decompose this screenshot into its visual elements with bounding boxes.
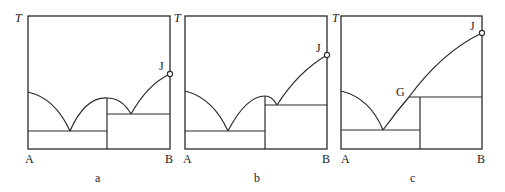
point-g-label: G xyxy=(396,85,405,99)
component-a-label: A xyxy=(25,152,34,166)
panel-a-frame xyxy=(28,16,170,149)
panel-b: T J A B b xyxy=(174,11,330,185)
liquidus-right-branch xyxy=(277,55,327,105)
liquidus-compound-branch xyxy=(383,97,409,130)
phase-diagram-figure: T J A B a T J A B b xyxy=(0,0,505,192)
liquidus-left-branch xyxy=(341,91,383,130)
temperature-axis-label: T xyxy=(174,11,182,25)
panel-a: T J A B a xyxy=(15,11,173,185)
liquidus-right-branch xyxy=(409,33,482,97)
panel-c: T G J A B c xyxy=(332,11,485,185)
point-j-label: J xyxy=(159,59,164,73)
panel-a-caption: a xyxy=(95,171,101,185)
panel-c-caption: c xyxy=(410,171,415,185)
liquidus-left-branch xyxy=(28,92,70,131)
panel-b-caption: b xyxy=(254,171,260,185)
temperature-axis-label: T xyxy=(332,11,340,25)
liquidus-compound-right-branch xyxy=(265,96,277,105)
component-b-label: B xyxy=(477,152,485,166)
liquidus-compound-left-branch xyxy=(228,96,265,131)
component-b-label: B xyxy=(165,152,173,166)
liquidus-compound-left-branch xyxy=(70,98,107,131)
point-j-marker xyxy=(479,30,484,35)
component-a-label: A xyxy=(341,152,350,166)
point-j-label: J xyxy=(470,19,475,33)
component-a-label: A xyxy=(183,152,192,166)
liquidus-right-branch xyxy=(131,74,170,114)
point-j-label: J xyxy=(316,41,321,55)
component-b-label: B xyxy=(322,152,330,166)
point-j-marker xyxy=(324,52,329,57)
liquidus-compound-right-branch xyxy=(107,98,131,114)
liquidus-left-branch xyxy=(185,91,228,131)
temperature-axis-label: T xyxy=(15,11,23,25)
panel-c-frame xyxy=(341,16,482,149)
panel-b-frame xyxy=(185,16,327,149)
point-j-marker xyxy=(167,71,172,76)
